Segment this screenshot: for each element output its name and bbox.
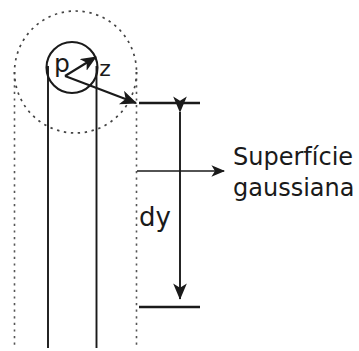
gaussian-surface-label-line1: Superfície <box>233 143 353 171</box>
gaussian-surface-label-line2: gaussiana <box>233 174 354 202</box>
radial-distance-label: z <box>99 56 111 81</box>
gaussian-surface-diagram: p z dy Superfície gaussiana <box>0 0 359 351</box>
height-element-label: dy <box>139 202 171 232</box>
diagram-canvas: p z dy Superfície gaussiana <box>0 0 359 351</box>
dashed-circle <box>15 11 137 133</box>
charge-density-label: p <box>54 49 70 78</box>
